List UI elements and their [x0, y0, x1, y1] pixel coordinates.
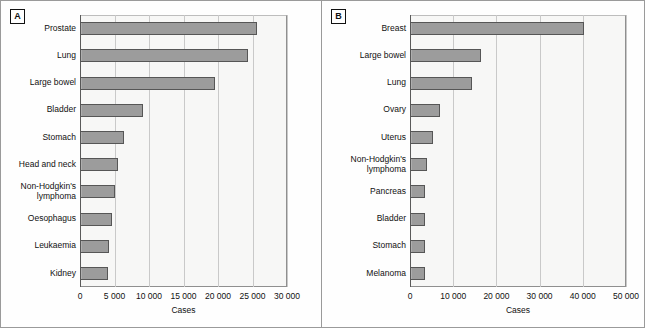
bar [80, 158, 118, 171]
bar [80, 213, 112, 226]
figure-two-panel-bar-charts: A ProstateLungLarge bowelBladderStomachH… [0, 0, 645, 328]
category-label: Bladder [324, 214, 406, 224]
bar [410, 77, 472, 90]
x-tick-label: 40 000 [563, 291, 603, 301]
bar [80, 131, 124, 144]
category-label: Stomach [3, 133, 76, 143]
bar [410, 267, 425, 280]
bar-series-b [410, 15, 626, 287]
panel-b: B BreastLarge bowelLungOvaryUterusNon-Ho… [322, 0, 645, 328]
category-label: Prostate [3, 24, 76, 34]
gridline [287, 15, 288, 287]
category-label: Uterus [324, 133, 406, 143]
category-label: Large bowel [3, 78, 76, 88]
bar [80, 185, 115, 198]
x-axis-title-a: Cases [80, 305, 287, 315]
bar [410, 131, 433, 144]
plot-area-a [80, 15, 287, 287]
x-tick-label: 10 000 [433, 291, 473, 301]
bar [410, 213, 425, 226]
gridline [626, 15, 627, 287]
category-label: Ovary [324, 105, 406, 115]
x-tick-label: 30 000 [267, 291, 307, 301]
category-label: Leukaemia [3, 241, 76, 251]
plot-area-b [410, 15, 626, 287]
category-label: Head and neck [3, 160, 76, 170]
x-tick-label: 50 000 [606, 291, 645, 301]
bar [410, 22, 584, 35]
bar [80, 22, 257, 35]
bar [410, 49, 481, 62]
category-label: Melanoma [324, 269, 406, 279]
bar [80, 104, 143, 117]
bar [80, 267, 108, 280]
bar [80, 49, 248, 62]
bar [410, 185, 425, 198]
x-tick-label: 0 [390, 291, 430, 301]
category-label: Lung [3, 51, 76, 61]
category-label: Non-Hodgkin's lymphoma [3, 182, 76, 201]
category-label: Non-Hodgkin's lymphoma [324, 155, 406, 174]
panel-a: A ProstateLungLarge bowelBladderStomachH… [0, 0, 322, 328]
bar-series-a [80, 15, 287, 287]
category-label: Stomach [324, 241, 406, 251]
bar [410, 240, 425, 253]
bar [80, 77, 215, 90]
category-label: Oesophagus [3, 214, 76, 224]
category-label: Pancreas [324, 187, 406, 197]
panel-b-letter: B [331, 9, 346, 24]
x-axis-title-b: Cases [410, 305, 626, 315]
category-label: Bladder [3, 105, 76, 115]
category-label: Large bowel [324, 51, 406, 61]
bar [80, 240, 109, 253]
category-label: Kidney [3, 269, 76, 279]
x-tick-label: 20 000 [476, 291, 516, 301]
bar [410, 158, 427, 171]
category-label: Breast [324, 24, 406, 34]
panel-a-letter: A [10, 9, 25, 24]
category-label: Lung [324, 78, 406, 88]
bar [410, 104, 440, 117]
x-tick-label: 30 000 [520, 291, 560, 301]
